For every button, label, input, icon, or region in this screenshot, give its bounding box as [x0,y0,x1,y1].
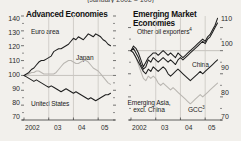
chart-svg-advanced [0,0,121,141]
figure-root: (January 2002 = 100) Advanced Economies … [0,0,241,141]
chart-svg-emerging [120,0,241,141]
panel-emerging-market-economies: Emerging Market Economies 110 100 90 80 … [120,0,241,141]
panel-advanced-economies: Advanced Economies 140 130 120 110 100 9… [0,0,121,141]
